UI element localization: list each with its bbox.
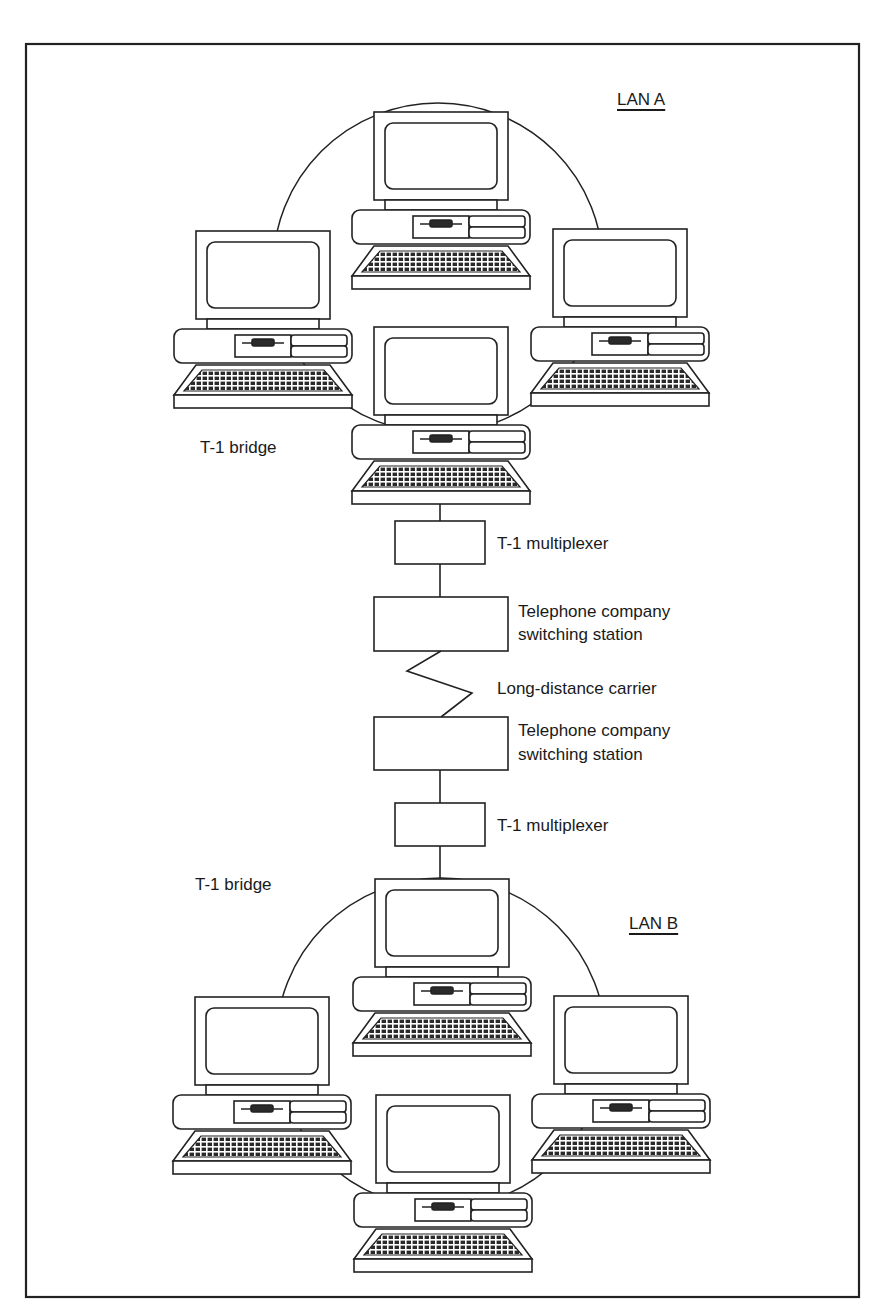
lan-b-computer-left — [173, 997, 351, 1174]
long-distance-carrier-zigzag — [407, 651, 472, 717]
lan-a-computer-top — [352, 112, 530, 289]
switching-station-top-label-line1: Telephone company — [518, 601, 670, 623]
long-distance-carrier-label: Long-distance carrier — [497, 678, 657, 700]
lan-a-computer-bottom — [352, 327, 530, 504]
t1-multiplexer-top-box — [395, 521, 485, 564]
t1-multiplexer-bottom-label: T-1 multiplexer — [497, 815, 608, 837]
lan-b-computer-top — [353, 879, 531, 1056]
lan-a-bridge-label: T-1 bridge — [200, 437, 277, 459]
t1-multiplexer-bottom-box — [395, 803, 485, 846]
lan-a-computer-left — [174, 231, 352, 408]
switching-station-top-box — [374, 597, 508, 651]
t1-multiplexer-top-label: T-1 multiplexer — [497, 533, 608, 555]
switching-station-bottom-label-line2: switching station — [518, 744, 643, 766]
lan-b-computer-right — [532, 996, 710, 1173]
wan-link-chain — [374, 504, 508, 879]
switching-station-bottom-label-line1: Telephone company — [518, 720, 670, 742]
lan-b-computer-bottom — [354, 1095, 532, 1272]
diagram-canvas: LAN A T-1 bridge T-1 multiplexer Telepho… — [0, 0, 883, 1313]
lan-a-label: LAN A — [617, 89, 665, 111]
switching-station-top-label-line2: switching station — [518, 624, 643, 646]
network-diagram-svg — [0, 0, 883, 1313]
switching-station-bottom-box — [374, 717, 508, 770]
lan-b-bridge-label: T-1 bridge — [195, 874, 272, 896]
lan-b-label: LAN B — [629, 913, 678, 935]
lan-a-computer-right — [531, 229, 709, 406]
